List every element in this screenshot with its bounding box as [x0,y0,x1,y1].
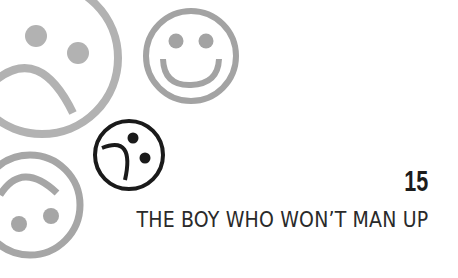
chapter-title: THE BOY WHO WON’T MAN UP [136,209,428,231]
large-sad-face-icon [0,0,118,134]
upside-down-smiley-face-icon [0,155,80,255]
smiley-face-icon [146,11,236,101]
tilted-confused-face-icon [95,121,163,189]
emoticon-illustration [0,0,458,278]
chapter-number: 15 [404,166,428,196]
